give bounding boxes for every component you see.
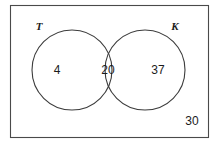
venn-diagram-canvas: T K 4 20 37 30 (0, 0, 219, 143)
region-count-t-only: 4 (54, 63, 61, 77)
region-count-outside: 30 (185, 114, 199, 128)
set-label-k: K (170, 20, 179, 32)
venn-diagram: T K 4 20 37 30 (0, 0, 219, 143)
region-count-k-only: 37 (151, 63, 165, 77)
region-count-intersection: 20 (101, 63, 115, 77)
